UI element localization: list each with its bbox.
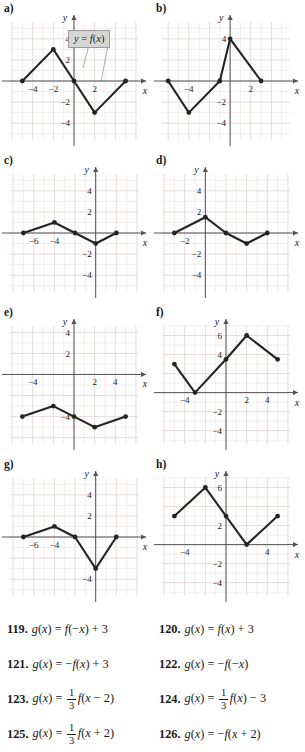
graph-svg-a: xy−4−22−4−224 bbox=[0, 0, 152, 152]
x-tick-label: −4 bbox=[28, 84, 38, 94]
x-axis-label: x bbox=[294, 397, 300, 408]
x-tick-label: 2 bbox=[92, 377, 97, 387]
x-tick-label: 2 bbox=[249, 84, 254, 94]
panel-label-f: f) bbox=[156, 306, 164, 318]
x-tick-label: −4 bbox=[50, 540, 60, 550]
data-point-marker bbox=[172, 514, 177, 519]
fraction: 13 bbox=[67, 687, 76, 710]
graph-svg-h: xy−44−4−226 bbox=[152, 456, 304, 608]
exercise-item: 125.g(x) = 13f(x + 2) bbox=[0, 723, 152, 746]
y-axis-label: y bbox=[83, 468, 89, 479]
exercise-number: 125. bbox=[7, 728, 29, 740]
y-tick-label: 2 bbox=[66, 349, 71, 359]
exercise-list: 119.g(x) = f(−x) + 3120.g(x) = f(x) + 31… bbox=[0, 612, 305, 752]
data-point-marker bbox=[172, 362, 177, 367]
x-axis-label: x bbox=[294, 85, 300, 96]
data-point-marker bbox=[72, 414, 77, 419]
data-point-marker bbox=[166, 79, 171, 84]
axes bbox=[2, 319, 146, 450]
x-axis-label: x bbox=[294, 549, 300, 560]
y-tick-label: −2 bbox=[60, 97, 70, 107]
exercise-item: 124.g(x) = 13f(x) − 3 bbox=[152, 688, 305, 711]
data-point-marker bbox=[52, 524, 57, 529]
y-axis-label: y bbox=[214, 468, 220, 479]
y-tick-label: 4 bbox=[197, 186, 202, 196]
exercise-number: 123. bbox=[7, 693, 29, 705]
data-point-marker bbox=[72, 79, 77, 84]
exercise-item: 122.g(x) = −f(−x) bbox=[152, 658, 305, 670]
data-point-marker bbox=[123, 79, 128, 84]
y-axis-label: y bbox=[83, 164, 89, 175]
graph-panel-a: a)xy−4−22−4−224y = f(x) bbox=[0, 0, 152, 152]
data-point-marker bbox=[114, 535, 119, 540]
exercise-expression: g(x) = −f(x + 2) bbox=[185, 728, 261, 740]
data-point-marker bbox=[265, 231, 270, 236]
panel-label-h: h) bbox=[156, 458, 166, 470]
exercise-item: 120.g(x) = f(x) + 3 bbox=[152, 623, 305, 635]
data-point-marker bbox=[123, 414, 128, 419]
exercise-expression: g(x) = f(x) + 3 bbox=[185, 623, 254, 635]
exercise-page: a)xy−4−22−4−224y = f(x)b)xy−42−4−24c)xy−… bbox=[0, 0, 305, 752]
fraction: 13 bbox=[219, 687, 228, 710]
data-point-marker bbox=[20, 414, 25, 419]
exercise-expression: g(x) = 13f(x − 2) bbox=[33, 688, 115, 711]
data-point-marker bbox=[244, 241, 249, 246]
exercise-expression: g(x) = f(−x) + 3 bbox=[32, 623, 108, 635]
x-tick-label: −2 bbox=[49, 84, 59, 94]
graph-svg-f: xy−424−4−246 bbox=[152, 304, 304, 456]
x-tick-label: −4 bbox=[28, 377, 38, 387]
function-curve bbox=[168, 39, 261, 113]
data-point-marker bbox=[224, 231, 229, 236]
exercise-expression: g(x) = 13f(x + 2) bbox=[33, 723, 115, 746]
x-axis-label: x bbox=[142, 237, 148, 248]
x-tick-label: −4 bbox=[184, 84, 194, 94]
exercise-expression: g(x) = −f(x) + 3 bbox=[33, 658, 109, 670]
data-point-marker bbox=[244, 542, 249, 547]
y-axis-label: y bbox=[62, 12, 68, 23]
data-point-marker bbox=[186, 110, 191, 115]
exercise-number: 120. bbox=[159, 623, 181, 635]
exercise-number: 122. bbox=[159, 658, 181, 670]
data-point-marker bbox=[73, 231, 78, 236]
x-axis-label: x bbox=[142, 85, 148, 96]
data-point-marker bbox=[51, 404, 56, 409]
graph-panel-c: c)xy−6−4−4−224 bbox=[0, 152, 152, 304]
y-tick-label: 6 bbox=[218, 331, 223, 341]
y-tick-label: −2 bbox=[212, 559, 222, 569]
y-tick-label: 4 bbox=[218, 350, 223, 360]
function-callout: y = f(x) bbox=[68, 30, 110, 48]
y-tick-label: −4 bbox=[212, 578, 222, 588]
y-tick-label: 2 bbox=[87, 207, 92, 217]
x-tick-label: −4 bbox=[50, 236, 60, 246]
y-tick-label: −4 bbox=[217, 118, 227, 128]
y-axis-label: y bbox=[214, 316, 220, 327]
exercise-number: 119. bbox=[7, 623, 28, 635]
y-tick-label: −2 bbox=[192, 249, 202, 259]
y-tick-label: 2 bbox=[66, 55, 71, 65]
data-point-marker bbox=[244, 333, 249, 338]
data-point-marker bbox=[217, 79, 222, 84]
y-tick-label: −2 bbox=[217, 97, 227, 107]
data-point-marker bbox=[259, 79, 264, 84]
y-tick-label: −4 bbox=[82, 574, 92, 584]
data-point-marker bbox=[193, 390, 198, 395]
panel-label-a: a) bbox=[4, 2, 14, 14]
panel-label-e: e) bbox=[4, 306, 13, 318]
data-point-marker bbox=[275, 357, 280, 362]
data-point-marker bbox=[203, 215, 208, 220]
y-tick-label: 4 bbox=[66, 328, 71, 338]
x-tick-label: 4 bbox=[265, 547, 270, 557]
exercise-number: 121. bbox=[7, 658, 29, 670]
graph-panel-grid: a)xy−4−22−4−224y = f(x)b)xy−42−4−24c)xy−… bbox=[0, 0, 305, 608]
y-tick-label: 6 bbox=[218, 483, 223, 493]
data-point-marker bbox=[228, 36, 233, 41]
y-tick-label: −2 bbox=[212, 407, 222, 417]
exercise-item: 119.g(x) = f(−x) + 3 bbox=[0, 623, 152, 635]
data-point-marker bbox=[20, 79, 25, 84]
exercise-item: 123.g(x) = 13f(x − 2) bbox=[0, 688, 152, 711]
data-point-marker bbox=[21, 231, 26, 236]
y-tick-label: −2 bbox=[82, 249, 92, 259]
panel-label-g: g) bbox=[4, 458, 14, 470]
x-tick-label: 2 bbox=[244, 395, 249, 405]
y-tick-label: −4 bbox=[60, 118, 70, 128]
